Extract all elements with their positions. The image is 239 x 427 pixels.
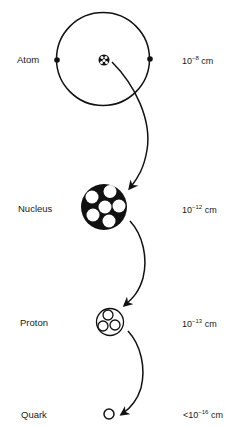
electron-right bbox=[147, 56, 153, 62]
arrow-nucleus-to-proton bbox=[125, 221, 145, 305]
level-label-proton: Proton bbox=[20, 317, 48, 329]
size-exponent: −12 bbox=[192, 204, 202, 210]
size-base: 10 bbox=[182, 205, 192, 215]
atom-shape bbox=[54, 13, 153, 106]
level-label-nucleus: Nucleus bbox=[18, 203, 52, 215]
size-base: 10 bbox=[188, 410, 198, 420]
size-unit: cm bbox=[202, 205, 217, 215]
size-exponent: −13 bbox=[192, 318, 202, 324]
size-base: 10 bbox=[182, 319, 192, 329]
size-unit: cm bbox=[199, 56, 214, 66]
arrow-proton-to-quark bbox=[122, 331, 143, 414]
size-label-nucleus: 10−12 cm bbox=[182, 204, 217, 216]
size-exponent: −16 bbox=[198, 409, 208, 415]
level-label-atom: Atom bbox=[17, 54, 39, 66]
atom-nucleus-small bbox=[99, 55, 110, 66]
size-unit: cm bbox=[202, 319, 217, 329]
level-label-quark: Quark bbox=[21, 409, 47, 421]
size-base: 10 bbox=[182, 56, 192, 66]
size-label-atom: 10−8 cm bbox=[182, 55, 213, 67]
size-label-proton: 10−13 cm bbox=[182, 318, 217, 330]
quark-shape bbox=[104, 409, 114, 419]
size-unit: cm bbox=[208, 410, 223, 420]
arrow-atom-to-nucleus bbox=[112, 62, 148, 188]
size-exponent: −8 bbox=[192, 55, 199, 61]
proton-shape bbox=[97, 309, 124, 336]
nucleus-shape bbox=[81, 184, 127, 230]
electron-left bbox=[54, 57, 60, 63]
size-label-quark: <10−16 cm bbox=[183, 409, 223, 421]
